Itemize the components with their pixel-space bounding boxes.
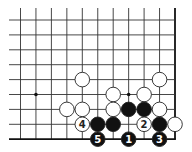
white-stone-icon (75, 72, 90, 87)
black-stone-move-5: 5 (90, 132, 105, 147)
move-number-label: 5 (94, 134, 101, 145)
star-point-icon (34, 93, 38, 97)
black-stone (90, 117, 105, 132)
black-stone-icon (152, 117, 167, 132)
move-number-label: 3 (156, 134, 163, 145)
black-stone-icon (121, 102, 136, 117)
white-stone (106, 102, 121, 117)
go-board: 42513 (0, 0, 192, 152)
black-stone-icon (106, 117, 121, 132)
black-stone-icon (137, 102, 152, 117)
black-stone-move-1: 1 (121, 132, 136, 147)
black-stone (121, 102, 136, 117)
white-stone (106, 87, 121, 102)
white-stone (152, 72, 167, 87)
white-stone-icon (137, 87, 152, 102)
move-number-label: 2 (141, 119, 148, 130)
move-number-label: 1 (125, 134, 132, 145)
black-stone (152, 117, 167, 132)
stones-layer: 42513 (60, 72, 183, 146)
move-number-label: 4 (79, 119, 86, 130)
white-stone-move-2: 2 (137, 117, 152, 132)
white-stone-icon (106, 102, 121, 117)
white-stone (75, 102, 90, 117)
white-stone (137, 87, 152, 102)
white-stone-move-4: 4 (75, 117, 90, 132)
white-stone (152, 102, 167, 117)
white-stone-icon (60, 102, 75, 117)
black-stone-icon (90, 117, 105, 132)
white-stone-icon (152, 72, 167, 87)
black-stone (137, 102, 152, 117)
white-stone-icon (152, 102, 167, 117)
white-stone-icon (75, 102, 90, 117)
white-stone-icon (106, 87, 121, 102)
white-stone (168, 117, 183, 132)
white-stone (75, 72, 90, 87)
black-stone (106, 117, 121, 132)
white-stone-icon (168, 117, 183, 132)
white-stone (60, 102, 75, 117)
black-stone-move-3: 3 (152, 132, 167, 147)
star-point-icon (127, 93, 131, 97)
